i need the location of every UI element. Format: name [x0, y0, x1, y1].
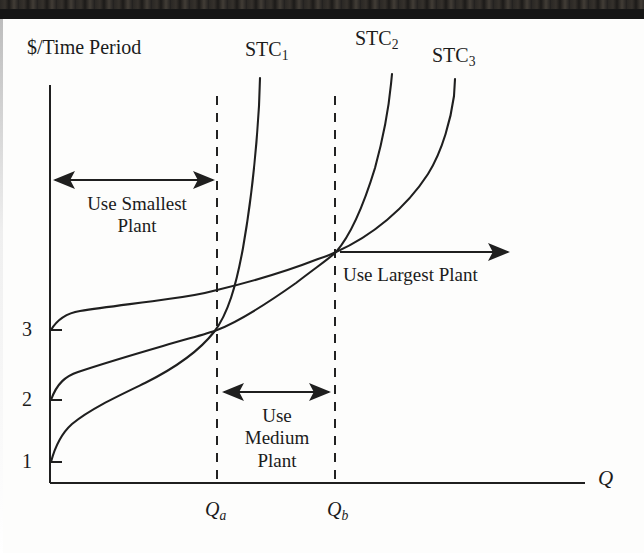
curve-label-stc1-subscript: 1 [282, 48, 289, 63]
x-axis-label: Q [598, 466, 613, 491]
x-tick-label-qb: Qb [327, 498, 348, 524]
curve-label-stc3-subscript: 3 [469, 54, 476, 69]
curve-label-stc1: STC1 [245, 38, 288, 64]
curve-label-stc2-subscript: 2 [392, 37, 399, 52]
annotation-use-medium-plant: Use Medium Plant [222, 405, 332, 472]
stc-curves-figure: $/Time Period Q STC1 STC2 STC3 1 2 3 Qa … [0, 0, 644, 553]
curve-label-stc2: STC2 [355, 27, 398, 53]
curve-label-stc2-base: STC [355, 27, 392, 49]
annotation-use-medium-plant-line1: Use [222, 405, 332, 427]
annotation-use-medium-plant-line3: Plant [222, 450, 332, 472]
annotation-use-smallest-plant-line1: Use Smallest [63, 193, 211, 215]
annotation-use-largest-plant: Use Largest Plant [343, 264, 478, 286]
curve-label-stc3: STC3 [432, 44, 475, 70]
y-axis-label: $/Time Period [27, 36, 141, 60]
annotation-use-medium-plant-line2: Medium [222, 427, 332, 449]
x-tick-label-qa-subscript: a [219, 508, 226, 523]
y-tick-label-3: 3 [22, 318, 32, 342]
y-tick-label-1: 1 [22, 450, 32, 474]
x-tick-label-qb-subscript: b [341, 508, 348, 523]
curve-label-stc1-base: STC [245, 38, 282, 60]
x-tick-label-qa: Qa [205, 498, 226, 524]
x-tick-label-qb-base: Q [327, 498, 341, 520]
y-tick-label-2: 2 [22, 388, 32, 412]
curve-label-stc3-base: STC [432, 44, 469, 66]
x-tick-label-qa-base: Q [205, 498, 219, 520]
annotation-use-smallest-plant-line2: Plant [63, 215, 211, 237]
annotation-use-smallest-plant: Use Smallest Plant [63, 193, 211, 238]
